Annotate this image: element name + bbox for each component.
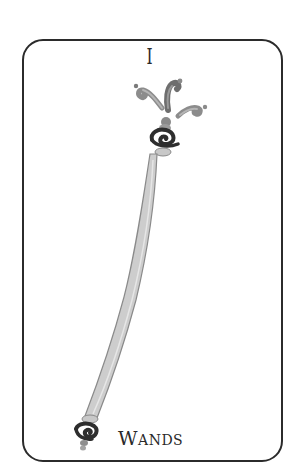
wand-shaft xyxy=(85,154,157,418)
bottom-knob-icon xyxy=(80,440,88,446)
suit-label-initial: W xyxy=(118,427,138,449)
flame-swirls-icon xyxy=(134,79,207,116)
wand-illustration xyxy=(0,0,299,476)
suit-label-rest: ANDS xyxy=(138,432,183,448)
top-spiral-icon xyxy=(152,130,178,147)
bottom-spiral-icon xyxy=(76,424,97,440)
suit-label: WANDS xyxy=(118,427,183,451)
